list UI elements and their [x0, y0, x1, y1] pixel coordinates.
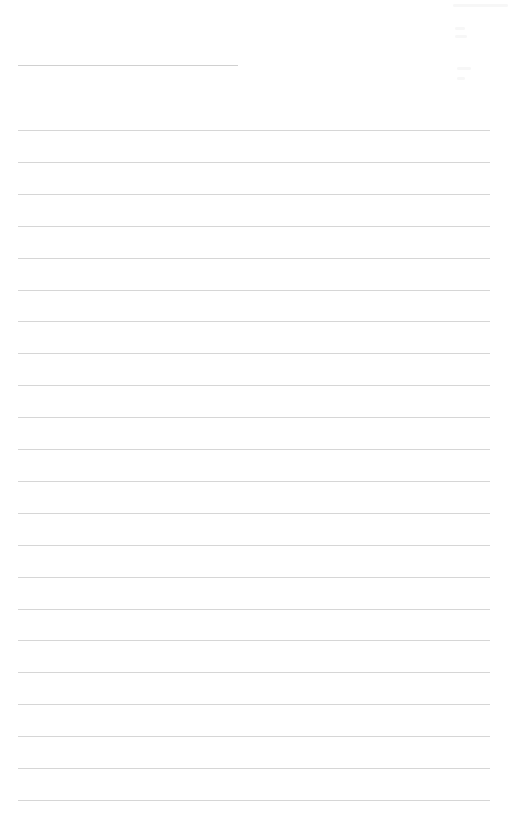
- lined-paper-page: [0, 0, 519, 833]
- ruled-line: [18, 290, 490, 291]
- ruled-line: [18, 640, 490, 641]
- ruled-line: [18, 704, 490, 705]
- header-rule: [18, 65, 238, 66]
- ruled-line: [18, 194, 490, 195]
- ruled-line: [18, 417, 490, 418]
- ruled-line: [18, 162, 490, 163]
- ruled-line: [18, 577, 490, 578]
- ruled-line: [18, 321, 490, 322]
- ruled-line: [18, 800, 490, 801]
- ruled-line: [18, 130, 490, 131]
- ruled-line: [18, 768, 490, 769]
- ruled-line: [18, 481, 490, 482]
- ruled-line: [18, 513, 490, 514]
- ruled-line: [18, 258, 490, 259]
- ruled-line: [18, 449, 490, 450]
- ruled-line: [18, 385, 490, 386]
- bleed-through-marks: [443, 2, 513, 92]
- ruled-line: [18, 226, 490, 227]
- ruled-line: [18, 353, 490, 354]
- ruled-line: [18, 736, 490, 737]
- ruled-line: [18, 672, 490, 673]
- ruled-line: [18, 609, 490, 610]
- ruled-line: [18, 545, 490, 546]
